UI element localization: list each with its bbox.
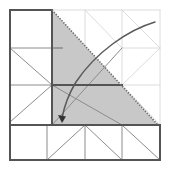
figure-container: Geometric grid construction with shaded … — [0, 0, 171, 171]
geometric-figure: Geometric grid construction with shaded … — [0, 0, 171, 171]
